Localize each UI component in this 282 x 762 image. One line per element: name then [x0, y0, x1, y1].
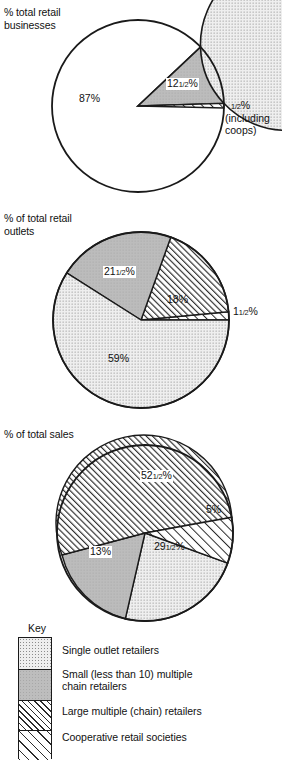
pie2-label-coop-frac: 1/2 [239, 308, 249, 317]
chart-title-total-sales: % of total sales [4, 428, 134, 441]
legend-swatch-single-outlet-retailers [19, 638, 51, 669]
pie3-label-cooperative: 5% [206, 504, 221, 516]
pie-chart-total-retail-businesses [48, 8, 234, 194]
legend-label-large-multiple-chain-retailers: Large multiple (chain) retailers [62, 705, 202, 717]
pie2-label-small-pct: % [125, 265, 134, 277]
pie1-label-small-pct: % [188, 77, 197, 89]
figure-canvas: % total retail businesses 87% 121/2% 1/2… [0, 0, 282, 762]
pie2-label-single-outlet: 59% [108, 353, 129, 365]
legend-label-single-outlet-retailers: Single outlet retailers [62, 644, 159, 656]
pie1-label-small-multiples: 121/2% [166, 78, 199, 90]
pie1-label-single-outlet: 87% [79, 93, 100, 105]
pie3-label-large-multiples: 521/2% [140, 470, 173, 482]
legend-swatch-column [18, 637, 52, 759]
pie3-label-small-multiples: 13% [89, 546, 112, 558]
pie2-label-small-int: 21 [104, 265, 116, 277]
pie3-label-single-outlet: 291/2% [154, 541, 185, 553]
pie1-label-small-int: 12 [167, 77, 179, 89]
pie1-slice-single-outlet [138, 0, 282, 130]
pie1-label-cooperative: 1/2% [231, 100, 250, 112]
legend-label-cooperative-retail-societies: Cooperative retail societies [62, 731, 187, 743]
legend-swatch-cooperative-retail-societies [19, 730, 51, 760]
legend-swatch-small-multiple-chain-retailers [19, 669, 51, 700]
pie2-label-small-frac: 1/2 [116, 268, 126, 277]
legend-heading: Key [28, 622, 46, 634]
legend-swatch-large-multiple-chain-retailers [19, 700, 51, 730]
pie3-label-single-frac: 1/2 [166, 543, 176, 552]
pie1-label-coop-pct: % [241, 99, 250, 111]
pie3-label-single-int: 29 [154, 540, 166, 552]
pie3-label-large-int: 52 [141, 469, 153, 481]
legend-label-small-multiple-chain-retailers: Small (less than 10) multiple chain reta… [62, 668, 192, 693]
pie1-label-coop-frac: 1/2 [231, 102, 241, 111]
pie3-label-large-frac: 1/2 [153, 472, 163, 481]
pie2-label-small-multiples: 211/2% [103, 266, 136, 278]
pie2-label-cooperative: 11/2% [233, 306, 258, 318]
pie1-label-cooperative-note: (including coops) [225, 112, 270, 137]
pie2-label-large-multiples: 18% [167, 294, 188, 306]
pie1-label-small-frac: 1/2 [179, 80, 189, 89]
pie3-label-large-pct: % [162, 469, 171, 481]
pie-chart-total-retail-outlets [50, 228, 236, 414]
pie3-label-single-pct: % [175, 540, 184, 552]
pie2-label-coop-pct: % [249, 305, 258, 317]
